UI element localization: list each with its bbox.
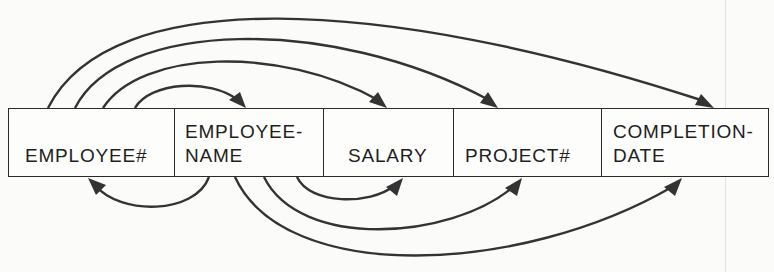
field-label: EMPLOYEE- NAME [185, 120, 303, 168]
field-salary: SALARY [324, 109, 454, 176]
arrow-employee-no-to-project-no [75, 39, 498, 108]
arrow-employee-no-to-employee-name [135, 86, 246, 108]
field-project-no: PROJECT# [454, 109, 602, 176]
field-completion-date: COMPLETION- DATE [602, 109, 768, 176]
arrow-employee-name-to-salary [297, 177, 403, 199]
field-employee-no: EMPLOYEE# [9, 109, 175, 176]
dependency-diagram: EMPLOYEE# EMPLOYEE- NAME SALARY PROJECT#… [0, 0, 774, 272]
field-label: PROJECT# [465, 144, 571, 168]
field-label: COMPLETION- DATE [613, 120, 754, 168]
record-layout: EMPLOYEE# EMPLOYEE- NAME SALARY PROJECT#… [8, 108, 769, 177]
arrow-employee-no-to-salary [103, 61, 387, 108]
field-label: SALARY [348, 144, 427, 168]
arrow-employee-name-to-employee-no [88, 177, 209, 207]
field-label: EMPLOYEE# [25, 144, 147, 168]
field-employee-name: EMPLOYEE- NAME [175, 109, 324, 176]
